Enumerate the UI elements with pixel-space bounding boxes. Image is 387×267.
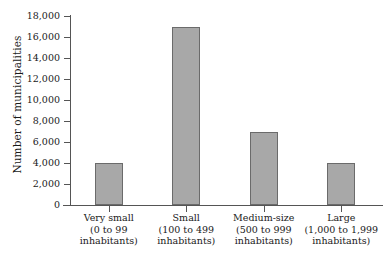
bar [172, 27, 200, 206]
category-label-range: inhabitants) [225, 235, 303, 247]
category-label-name: Small [148, 212, 226, 224]
y-tick-label: 10,000 [0, 95, 60, 105]
category-label-range: inhabitants) [148, 235, 226, 247]
category-label-range: inhabitants) [303, 235, 381, 247]
category-label-range: (100 to 499 [148, 224, 226, 236]
category-label-range: (1,000 to 1,999 [303, 224, 381, 236]
category-label-range: (500 to 999 [225, 224, 303, 236]
y-tick-label: 16,000 [0, 32, 60, 42]
bar [327, 163, 355, 205]
y-tick-label: 2,000 [0, 179, 60, 189]
category-label-name: Very small [70, 212, 148, 224]
category-label: Large(1,000 to 1,999inhabitants) [303, 212, 381, 247]
bar-chart: Number of municipalities 02,0004,0006,00… [0, 0, 387, 267]
y-tick-label: 4,000 [0, 158, 60, 168]
y-tick-label: 8,000 [0, 116, 60, 126]
y-tick-label: 18,000 [0, 11, 60, 21]
y-tick-mark [64, 205, 70, 206]
category-label-range: inhabitants) [70, 235, 148, 247]
y-tick-label: 14,000 [0, 53, 60, 63]
category-label: Medium-size(500 to 999inhabitants) [225, 212, 303, 247]
category-label-range: (0 to 99 [70, 224, 148, 236]
bar [95, 163, 123, 205]
category-label-name: Large [303, 212, 381, 224]
y-tick-label: 6,000 [0, 137, 60, 147]
y-tick-label: 12,000 [0, 74, 60, 84]
x-axis-line [63, 205, 383, 206]
category-label: Small(100 to 499inhabitants) [148, 212, 226, 247]
bar [250, 132, 278, 206]
category-label-name: Medium-size [225, 212, 303, 224]
category-label: Very small(0 to 99inhabitants) [70, 212, 148, 247]
y-tick-label: 0 [0, 200, 60, 210]
plot-area [70, 16, 380, 205]
